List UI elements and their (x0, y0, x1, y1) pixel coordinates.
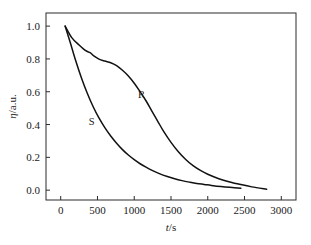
chart-figure: 050010001500200025003000 0.00.20.40.60.8… (0, 0, 311, 245)
y-tick-label: 0.6 (26, 86, 40, 98)
x-tick-label: 0 (58, 204, 64, 216)
x-tick-label: 2500 (234, 204, 257, 216)
x-tick-label: 1000 (123, 204, 146, 216)
series-label-s: S (89, 116, 95, 127)
x-tick-label: 500 (89, 204, 106, 216)
y-tick-label: 1.0 (26, 20, 40, 32)
plot-background (0, 0, 311, 245)
x-axis-title: t/s (166, 221, 176, 233)
y-tick-label: 0.8 (26, 53, 40, 65)
series-label-r: R (138, 89, 145, 100)
decay-plot-svg: 050010001500200025003000 0.00.20.40.60.8… (0, 0, 311, 245)
y-axis-title: η/a.u. (6, 94, 18, 119)
y-tick-label: 0.0 (26, 184, 40, 196)
y-tick-label: 0.4 (26, 119, 40, 131)
x-tick-label: 2000 (197, 204, 220, 216)
x-tick-label: 1500 (160, 204, 183, 216)
y-tick-label: 0.2 (26, 151, 40, 163)
x-tick-label: 3000 (270, 204, 293, 216)
